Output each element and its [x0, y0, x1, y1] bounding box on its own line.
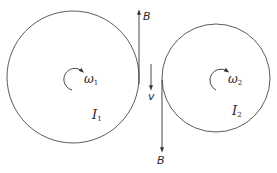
rotation-arrow-right-icon — [210, 69, 227, 90]
inertia1-label: I1 — [92, 108, 102, 123]
rotation-arrow-left-icon — [64, 68, 82, 90]
force-down-label: B — [157, 155, 165, 166]
omega2-label: ω2 — [228, 73, 242, 87]
force-up-label: B — [143, 11, 151, 22]
inertia2-label: I2 — [232, 104, 242, 119]
diagram-canvas: ω1 I1 ω2 I2 B B v — [0, 0, 277, 173]
right-disk — [162, 24, 270, 132]
velocity-label: v — [148, 91, 155, 102]
left-disk — [7, 11, 139, 143]
omega1-label: ω1 — [84, 73, 98, 87]
